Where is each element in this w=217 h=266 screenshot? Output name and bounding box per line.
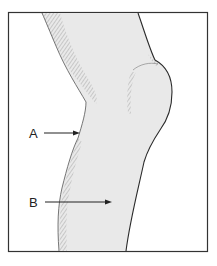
label-b: B: [29, 196, 38, 209]
label-a: A: [29, 127, 38, 140]
